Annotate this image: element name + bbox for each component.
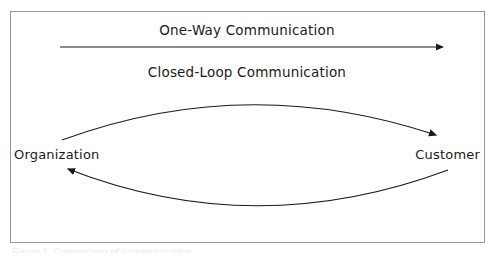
diagram-figure: One-Way Communication Closed-Loop Commun… — [0, 0, 494, 256]
one-way-communication-label: One-Way Communication — [0, 22, 494, 38]
diagram-frame — [10, 11, 485, 243]
closed-loop-communication-label: Closed-Loop Communication — [0, 64, 494, 80]
clipped-caption-remnant: Figure 1. Comparison of communication — [12, 247, 212, 253]
organization-node-label: Organization — [14, 147, 100, 162]
customer-node-label: Customer — [415, 147, 480, 162]
